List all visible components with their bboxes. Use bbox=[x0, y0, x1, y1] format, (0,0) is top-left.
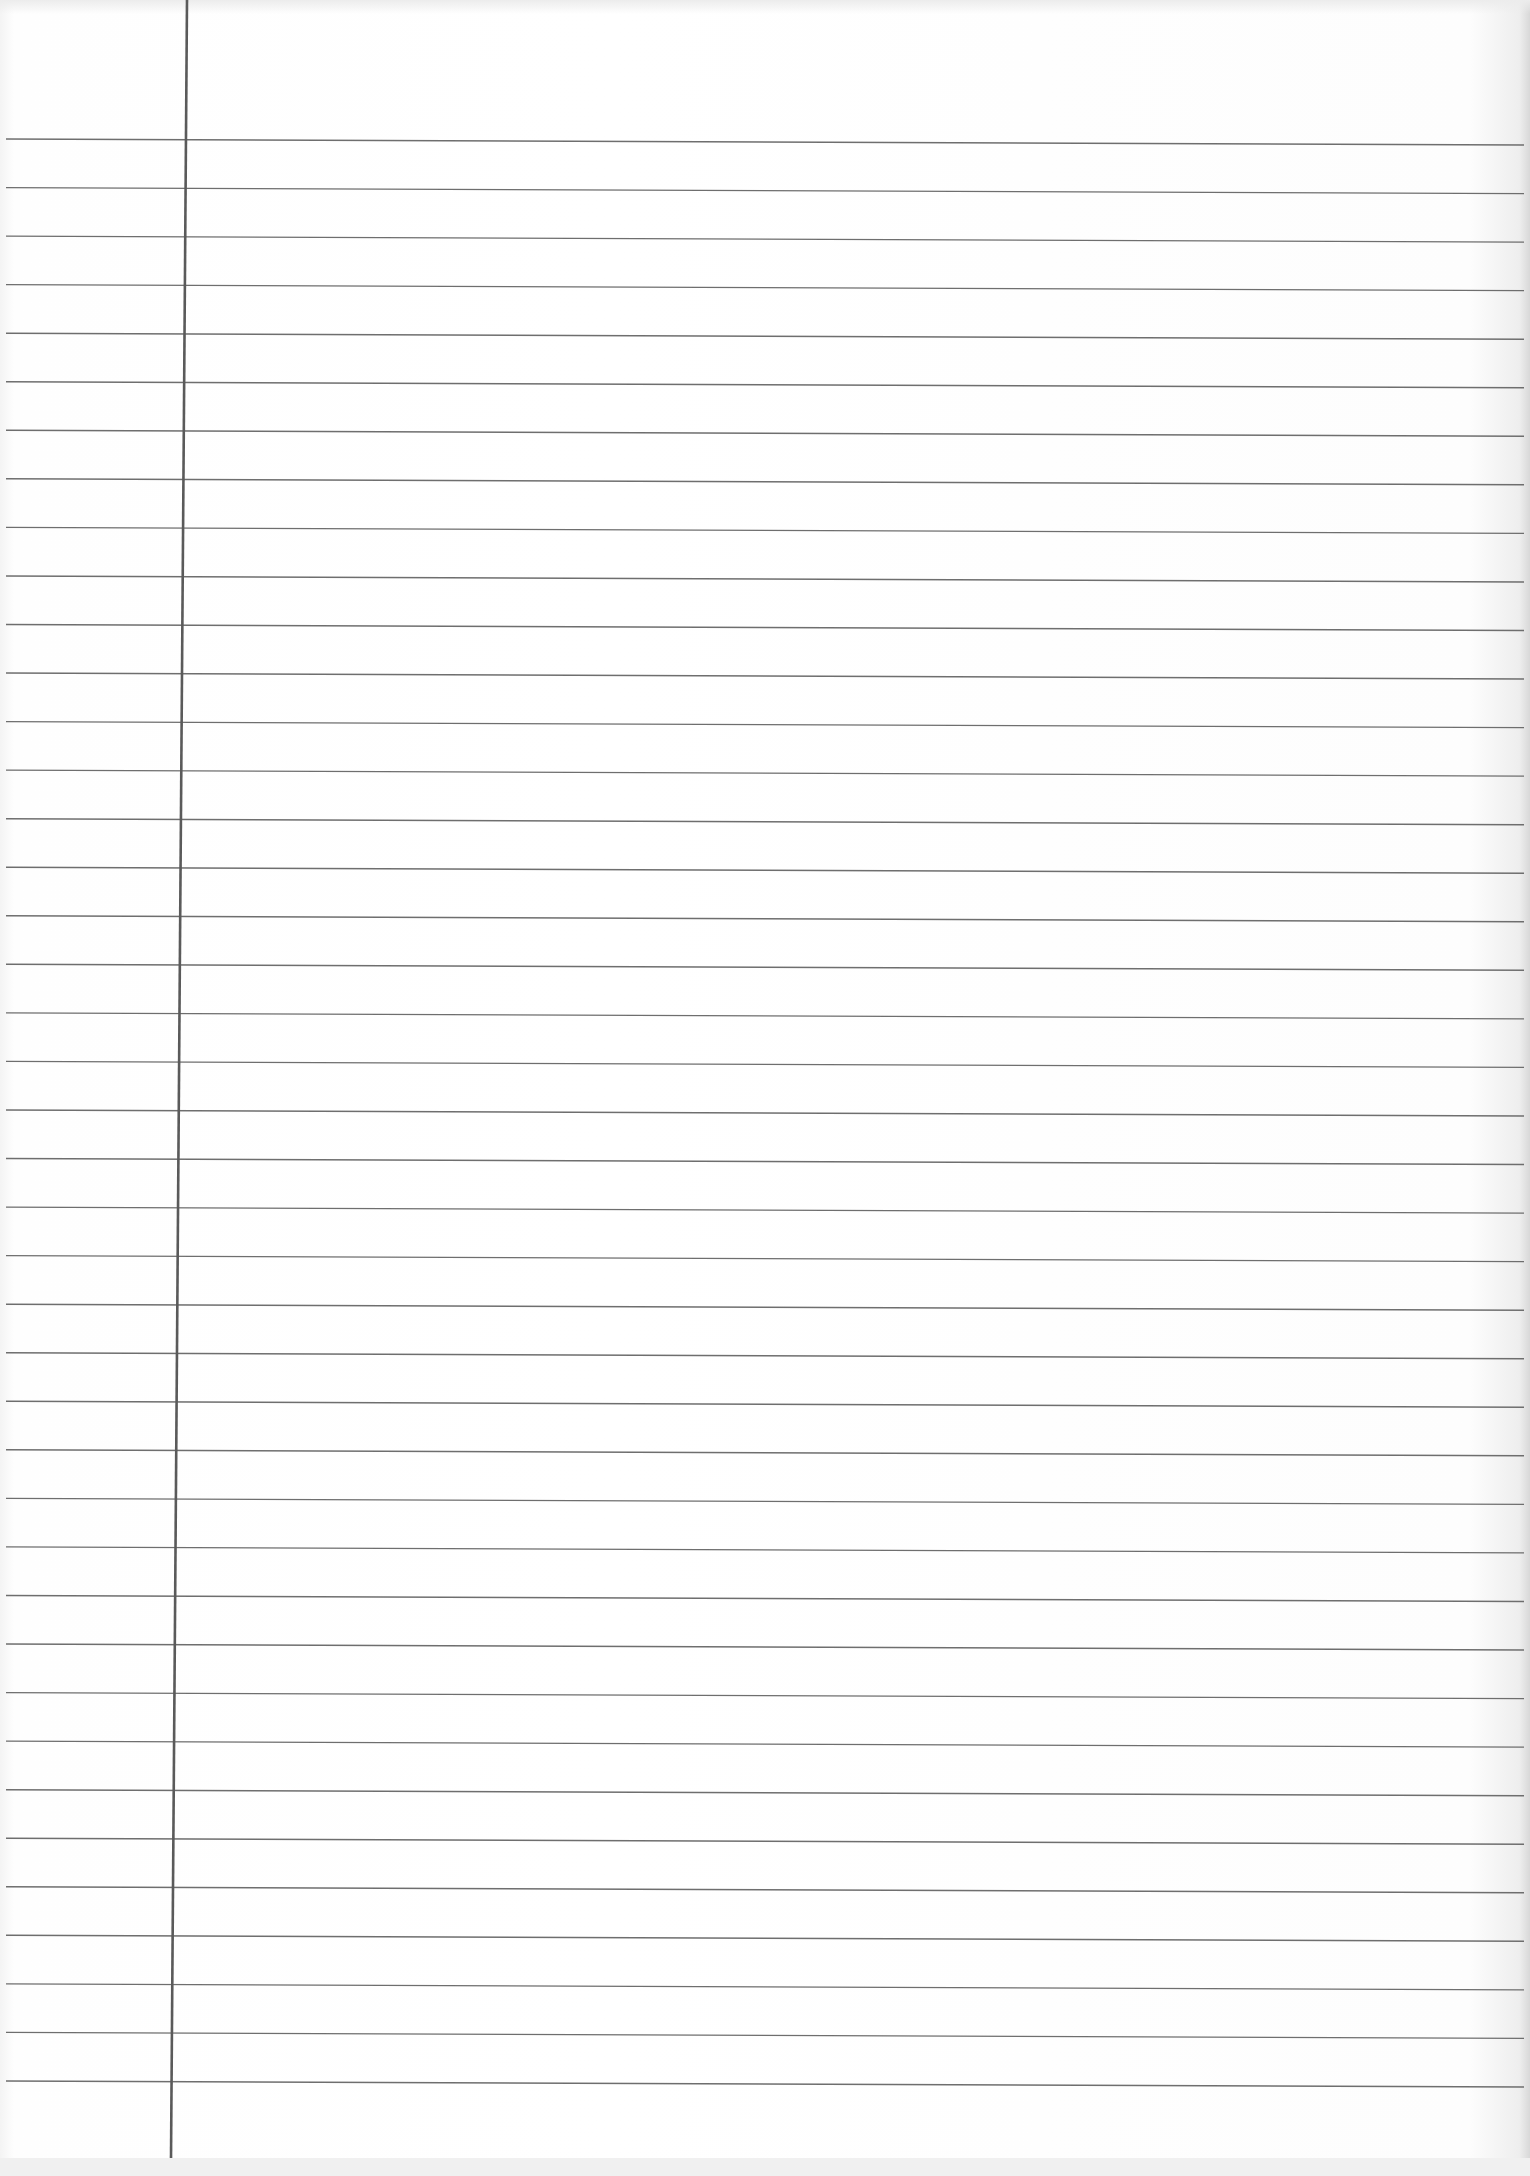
ruled-line bbox=[6, 1838, 1524, 1844]
ruled-line bbox=[6, 1741, 1524, 1747]
ruled-line bbox=[6, 964, 1524, 970]
ruled-line bbox=[6, 1110, 1524, 1116]
ruled-line bbox=[6, 1304, 1524, 1310]
ruled-line bbox=[6, 479, 1524, 485]
ruled-line bbox=[6, 1790, 1524, 1796]
ruled-line bbox=[6, 139, 1524, 145]
ruled-line bbox=[6, 819, 1524, 825]
ruled-line bbox=[6, 1353, 1524, 1359]
ruled-line bbox=[6, 2032, 1524, 2038]
ruled-line bbox=[6, 333, 1524, 339]
ruled-line bbox=[6, 430, 1524, 436]
ruled-line bbox=[6, 867, 1524, 873]
ruled-line bbox=[6, 1596, 1524, 1602]
ruled-lines bbox=[0, 0, 1530, 2176]
ruled-line bbox=[6, 1061, 1524, 1067]
ruled-line bbox=[6, 1547, 1524, 1553]
ruled-line bbox=[6, 1013, 1524, 1019]
ruled-line bbox=[6, 285, 1524, 291]
ruled-line bbox=[6, 382, 1524, 388]
ruled-line bbox=[6, 576, 1524, 582]
ruled-line bbox=[6, 527, 1524, 533]
ruled-line bbox=[6, 916, 1524, 922]
ruled-line bbox=[6, 722, 1524, 728]
ruled-line bbox=[6, 188, 1524, 194]
ruled-line bbox=[6, 2081, 1524, 2087]
ruled-line bbox=[6, 1984, 1524, 1990]
ruled-line bbox=[6, 1159, 1524, 1165]
ruled-line bbox=[6, 625, 1524, 631]
ruled-line bbox=[6, 236, 1524, 242]
ruled-line bbox=[6, 770, 1524, 776]
ruled-line bbox=[6, 1935, 1524, 1941]
ruled-line bbox=[6, 673, 1524, 679]
ruled-line bbox=[6, 1498, 1524, 1504]
ruled-line bbox=[6, 1450, 1524, 1456]
ruled-line bbox=[6, 1207, 1524, 1213]
ruled-line bbox=[6, 1256, 1524, 1262]
notebook-page bbox=[0, 0, 1530, 2176]
ruled-line bbox=[6, 1887, 1524, 1893]
ruled-line bbox=[6, 1401, 1524, 1407]
ruled-line bbox=[6, 1693, 1524, 1699]
margin-line bbox=[171, 0, 187, 2158]
ruled-line bbox=[6, 1644, 1524, 1650]
